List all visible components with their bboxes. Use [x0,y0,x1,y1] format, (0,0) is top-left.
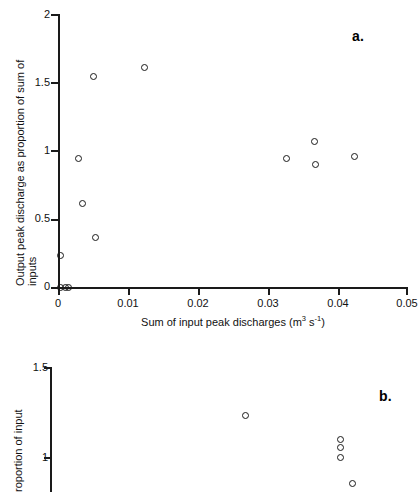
panel-a-xtick-0.04: 0.04 [318,297,358,309]
data-point [283,155,290,162]
panel-a-ytick-mark-1.5 [51,82,58,84]
panel-a-ytick-2: 2 [22,8,50,20]
panel-a-xtick-0.02: 0.02 [178,297,218,309]
panel-b-y-axis-line [50,367,52,492]
data-point [337,454,344,461]
panel-a: Output peak discharge as proportion of s… [0,0,419,330]
data-point [90,73,97,80]
panel-a-xtick-mark-0.04 [338,288,340,295]
data-point [312,161,319,168]
data-point [141,64,148,71]
data-point [65,284,72,291]
panel-a-xtick-mark-0.01 [128,288,130,295]
panel-b-ytick-mark-1.5 [44,367,51,369]
panel-a-ytick-mark-0.5 [51,219,58,221]
data-point [242,412,249,419]
data-point [57,252,64,259]
data-point [75,155,82,162]
data-point [351,153,358,160]
panel-a-xtick-0.01: 0.01 [108,297,148,309]
panel-a-xtick-mark-0.03 [268,288,270,295]
panel-a-ytick-0.5: 0.5 [22,212,50,224]
panel-a-xtick-0.03: 0.03 [248,297,288,309]
panel-a-x-axis-line [58,287,408,289]
panel-a-x-axis-title-mid: s [306,316,315,328]
data-point [79,200,86,207]
data-point [349,480,356,487]
panel-a-xtick-mark-0.05 [406,288,408,295]
figure-root: Output peak discharge as proportion of s… [0,0,419,492]
panel-a-x-axis-title-main: Sum of input peak discharges (m [141,316,302,328]
data-point [311,138,318,145]
panel-a-xtick-0.05: 0.05 [387,297,419,309]
panel-a-ytick-1.5: 1.5 [22,76,50,88]
panel-a-y-axis-title-line1: Output peak discharge as proportion of s… [14,60,26,286]
panel-b-letter: b. [379,388,392,404]
panel-a-x-axis-title-end: ) [321,316,325,328]
panel-a-xtick-mark-0.02 [198,288,200,295]
panel-a-ytick-mark-2 [51,14,58,16]
panel-b: roportion of input 1.5 1 b. [0,330,419,492]
panel-a-y-axis-line [58,14,60,288]
panel-a-x-axis-title: Sum of input peak discharges (m3 s-1) [58,316,408,328]
panel-a-ytick-0: 0 [22,280,50,292]
panel-a-ytick-1: 1 [22,144,50,156]
panel-b-ytick-mark-1 [44,457,51,459]
data-point [337,436,344,443]
data-point [337,444,344,451]
panel-a-letter: a. [352,28,364,44]
panel-a-xtick-0: 0 [38,297,78,309]
data-point [92,234,99,241]
panel-a-ytick-mark-1 [51,150,58,152]
